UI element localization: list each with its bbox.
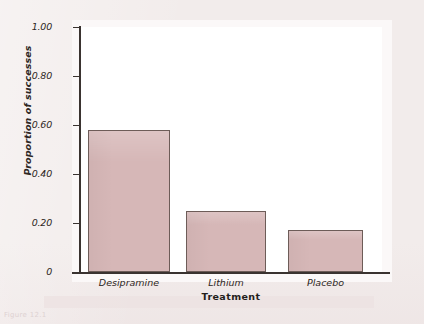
- bar-lithium: [186, 211, 266, 272]
- caption-fragment: Figure 12.1: [4, 311, 46, 319]
- y-axis-tick-label: 0: [8, 266, 52, 277]
- x-axis-line: [72, 272, 390, 274]
- y-axis-tick: [73, 125, 80, 127]
- y-axis-tick-label: 0.20: [8, 217, 52, 228]
- x-axis-title: Treatment: [80, 291, 382, 302]
- y-axis-title: Proportion of successes: [22, 36, 33, 186]
- bar-placebo: [288, 230, 363, 272]
- plot-area: [80, 27, 382, 272]
- y-axis-tick: [73, 272, 80, 274]
- x-axis-tick-label: Lithium: [186, 277, 266, 288]
- bar-desipramine: [88, 130, 170, 272]
- x-axis-tick-label: Desipramine: [88, 277, 170, 288]
- y-axis-tick: [73, 174, 80, 176]
- y-axis-tick-label: 1.00: [8, 21, 52, 32]
- figure-container: 00.200.400.600.801.00 Proportion of succ…: [0, 0, 424, 324]
- y-axis-tick: [73, 76, 80, 78]
- x-axis-tick-label: Placebo: [288, 277, 363, 288]
- y-axis-tick: [73, 27, 80, 29]
- y-axis-tick: [73, 223, 80, 225]
- y-axis-line: [79, 26, 81, 274]
